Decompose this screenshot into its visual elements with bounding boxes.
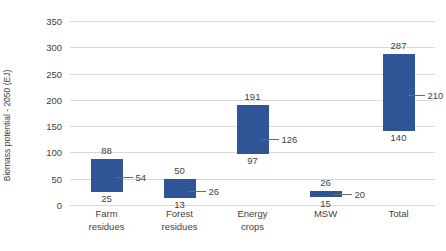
plot-area: 88255450132619197126261520287140210	[70, 21, 435, 205]
biomass-potential-range-chart: Biomass potential - 2050 (EJ) 0501001502…	[0, 0, 446, 251]
y-tick-label-0: 0	[0, 200, 62, 211]
y-tick-label-200: 200	[0, 94, 62, 105]
y-tick-label-300: 300	[0, 42, 62, 53]
bar-group[interactable]: 287140210	[362, 21, 435, 205]
bar-label-high: 26	[320, 177, 331, 188]
bar-group[interactable]: 882554	[70, 21, 143, 205]
y-tick-label-350: 350	[0, 16, 62, 27]
leader-line	[188, 191, 206, 192]
bar-label-high: 50	[174, 165, 185, 176]
x-axis-category-labels: FarmresiduesForestresiduesEnergycropsMSW…	[70, 208, 435, 248]
leader-line	[115, 177, 133, 178]
bar-label-high: 88	[101, 145, 112, 156]
bar-label-mid: 210	[428, 89, 444, 100]
bar-group[interactable]: 19197126	[216, 21, 289, 205]
x-axis-label: MSW	[289, 208, 362, 221]
bar-rect[interactable]	[383, 54, 415, 131]
bar-label-high: 191	[245, 91, 261, 102]
gridline-0	[70, 205, 435, 206]
x-axis-label: Energycrops	[216, 208, 289, 233]
leader-line	[261, 139, 279, 140]
y-tick-label-100: 100	[0, 147, 62, 158]
leader-line	[407, 95, 425, 96]
bar-rect[interactable]	[91, 159, 123, 192]
leader-line	[334, 194, 352, 195]
y-tick-label-250: 250	[0, 68, 62, 79]
y-tick-label-150: 150	[0, 121, 62, 132]
x-axis-label: Farmresidues	[70, 208, 143, 233]
bar-group[interactable]: 501326	[143, 21, 216, 205]
bar-label-low: 25	[101, 193, 112, 204]
bar-rect[interactable]	[164, 179, 196, 198]
bar-rect[interactable]	[237, 105, 269, 154]
x-axis-label: Total	[362, 208, 435, 221]
bar-label-high: 287	[391, 40, 407, 51]
bar-label-low: 140	[391, 132, 407, 143]
y-tick-label-50: 50	[0, 173, 62, 184]
x-axis-label: Forestresidues	[143, 208, 216, 233]
bar-label-low: 97	[247, 155, 258, 166]
bar-group[interactable]: 261520	[289, 21, 362, 205]
